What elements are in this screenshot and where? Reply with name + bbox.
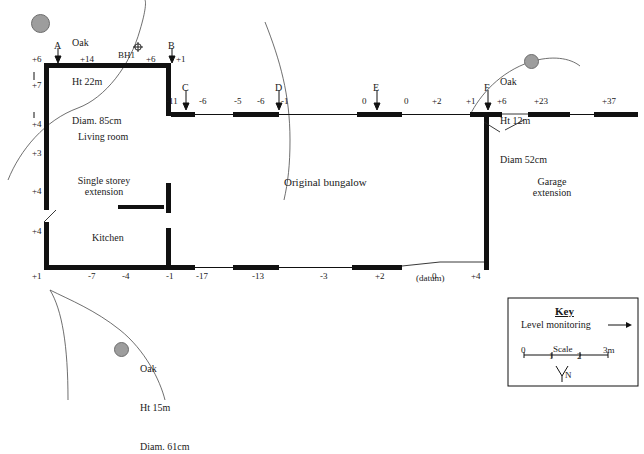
level-value: +6 [146, 54, 156, 64]
station-label-a: A [54, 40, 61, 51]
level-value: -1 [281, 96, 289, 106]
tree-label-line: Diam. 85cm [72, 114, 121, 127]
room-label-original-bungalow: Original bungalow [284, 176, 367, 188]
station-label-d: D [275, 82, 282, 93]
station-label-c: C [182, 82, 189, 93]
tree-symbol-oak-bottom [114, 342, 129, 357]
room-label-kitchen: Kitchen [92, 232, 124, 243]
tree-label-line: Diam. 61cm [140, 440, 189, 453]
level-value: +37 [602, 96, 616, 106]
level-value: -6 [257, 96, 265, 106]
key-title: Key [555, 305, 574, 317]
tree-label-line: Ht 22m [72, 75, 121, 88]
tree-label-line: Oak [500, 75, 547, 88]
key-scale-tick: 1 [549, 351, 554, 361]
tree-label-line: Ht 12m [500, 114, 547, 127]
north-arrow-label: N [565, 370, 572, 380]
walls [44, 63, 638, 270]
tree-label-line: Ht 15m [140, 401, 189, 414]
level-value: +4 [32, 226, 42, 236]
level-value: -5 [234, 96, 242, 106]
room-label-single-storey-extension: Single storey extension [62, 175, 146, 197]
station-label-f: F [484, 82, 490, 93]
level-value: -1 [166, 271, 174, 281]
tree-symbol-oak-top-left [31, 14, 50, 33]
key-scale-label: Scale [553, 344, 573, 354]
level-value: -17 [196, 271, 208, 281]
station-label-b: B [168, 40, 175, 51]
level-value: +1 [466, 96, 476, 106]
level-value: +4 [32, 119, 42, 129]
key-scale-tick: 2 [577, 351, 582, 361]
level-value: +4 [471, 271, 481, 281]
tree-label-line: Diam 52cm [500, 153, 547, 166]
key-scale-tick: 3m [603, 345, 615, 355]
tree-label-oak-right: Oak Ht 12m Diam 52cm [500, 49, 547, 192]
station-label-e: E [373, 82, 379, 93]
tree-label-oak-bottom: Oak Ht 15m Diam. 61cm [140, 336, 189, 454]
level-value: +2 [432, 96, 442, 106]
level-value: +4 [32, 186, 42, 196]
level-value: -13 [252, 271, 264, 281]
level-value: 0 [404, 96, 409, 106]
level-value: -11 [166, 96, 178, 106]
level-value: -7 [88, 271, 96, 281]
level-value: +6 [32, 54, 42, 64]
tree-label-oak-top-left: Oak Ht 22m Diam. 85cm [72, 10, 121, 153]
key-scale-tick: 0 [521, 345, 526, 355]
level-value: +1 [32, 271, 42, 281]
level-value: -6 [199, 96, 207, 106]
level-value: -3 [320, 271, 328, 281]
tree-label-line: Oak [72, 36, 121, 49]
level-value: +1 [176, 54, 186, 64]
level-value: +3 [32, 148, 42, 158]
datum-note: (datum) [416, 273, 445, 283]
level-value: -4 [122, 271, 130, 281]
level-value: +7 [32, 80, 42, 90]
level-value: 0 [362, 96, 367, 106]
key-entry-level-monitoring: Level monitoring [521, 319, 591, 330]
level-value: +2 [375, 271, 385, 281]
tree-label-line: Oak [140, 362, 189, 375]
level-value: 0 [432, 271, 437, 281]
